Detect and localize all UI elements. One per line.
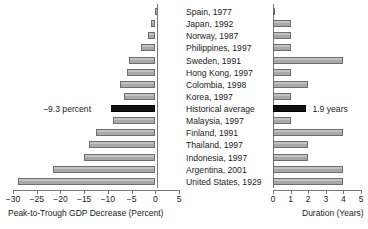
duration-tick-label: 4 [341, 194, 346, 204]
category-label: Sweden, 1991 [186, 55, 270, 67]
duration-bar [273, 44, 291, 51]
gdp-average-annotation: −9.3 percent [43, 104, 91, 114]
gdp-bar [129, 57, 155, 64]
category-label: Historical average [186, 103, 270, 115]
gdp-x-axis-title: Peak-to-Trough GDP Decrease (Percent) [8, 208, 163, 219]
gdp-tick-label: 5 [177, 194, 182, 204]
category-label: Argentina, 2001 [186, 164, 270, 176]
duration-average-annotation: 1.9 years [312, 104, 347, 114]
duration-bar [273, 32, 291, 39]
category-label: Malaysia, 1997 [186, 115, 270, 127]
gdp-tick-label: −25 [29, 194, 43, 204]
category-label: Colombia, 1998 [186, 79, 270, 91]
category-label: Thailand, 1997 [186, 139, 270, 151]
gdp-bar [148, 32, 156, 39]
duration-bar [273, 117, 291, 124]
duration-bar [273, 93, 291, 100]
category-label: Korea, 1997 [186, 91, 270, 103]
gdp-bar [96, 129, 155, 136]
gdp-bar [141, 44, 155, 51]
gdp-tick-label: −10 [101, 194, 115, 204]
crisis-comparison-chart: −30−25−20−15−10−505 −9.3 percent Peak-to… [0, 0, 368, 229]
duration-bar [273, 105, 306, 112]
gdp-decrease-panel: −30−25−20−15−10−505 −9.3 percent Peak-to… [0, 0, 184, 229]
category-label-column: Spain, 1977Japan, 1992Norway, 1987Philip… [186, 0, 270, 229]
gdp-bar [151, 20, 156, 27]
category-label: Finland, 1991 [186, 127, 270, 139]
gdp-bar [113, 117, 156, 124]
duration-x-axis-line [273, 190, 361, 191]
category-label-list: Spain, 1977Japan, 1992Norway, 1987Philip… [186, 6, 270, 188]
duration-x-axis-title: Duration (Years) [302, 208, 364, 219]
duration-tick-label: 3 [323, 194, 328, 204]
category-label: Japan, 1992 [186, 18, 270, 30]
duration-bar [273, 178, 343, 185]
duration-tick-label: 2 [306, 194, 311, 204]
gdp-bar [120, 81, 156, 88]
duration-panel: 012345 1.9 years Duration (Years) [270, 0, 368, 229]
gdp-bar [155, 8, 158, 15]
duration-bar [273, 20, 291, 27]
category-label: Indonesia, 1997 [186, 152, 270, 164]
duration-bar [273, 129, 343, 136]
duration-tick-label: 0 [271, 194, 276, 204]
gdp-bar [127, 69, 155, 76]
gdp-tick-label: −5 [127, 194, 137, 204]
category-label: Spain, 1977 [186, 6, 270, 18]
duration-bar [273, 57, 343, 64]
duration-bar [273, 8, 275, 15]
category-label: Norway, 1987 [186, 30, 270, 42]
gdp-tick-label: −15 [77, 194, 91, 204]
category-label: Hong Kong, 1997 [186, 67, 270, 79]
gdp-zero-line [157, 4, 158, 188]
gdp-tick-label: −30 [6, 194, 20, 204]
duration-bar [273, 154, 308, 161]
category-label: United States, 1929 [186, 176, 270, 188]
gdp-tick-label: −20 [53, 194, 67, 204]
gdp-x-axis-line [13, 190, 179, 191]
gdp-bar [84, 154, 155, 161]
duration-tick-label: 1 [288, 194, 293, 204]
duration-tick-label: 5 [359, 194, 364, 204]
gdp-bar [111, 105, 155, 112]
duration-bar [273, 166, 343, 173]
gdp-tick-label: 0 [153, 194, 158, 204]
gdp-bar [53, 166, 155, 173]
duration-bar [273, 69, 291, 76]
gdp-bar [89, 141, 155, 148]
category-label: Philippines, 1997 [186, 42, 270, 54]
duration-bar [273, 81, 308, 88]
gdp-bar [124, 93, 156, 100]
gdp-bar [18, 178, 156, 185]
duration-bar [273, 141, 308, 148]
